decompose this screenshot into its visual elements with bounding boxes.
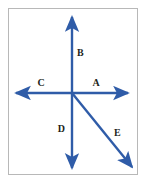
vector-diagram-canvas: B C A D E <box>0 0 145 183</box>
vector-e-arrow <box>72 93 132 167</box>
vector-b-label: B <box>77 47 84 58</box>
vector-a-label: A <box>92 77 100 88</box>
vector-diagram-figure: B C A D E <box>0 0 145 183</box>
vector-c-label: C <box>37 77 44 88</box>
vector-e-label: E <box>114 127 121 138</box>
vector-d-label: D <box>58 123 65 134</box>
